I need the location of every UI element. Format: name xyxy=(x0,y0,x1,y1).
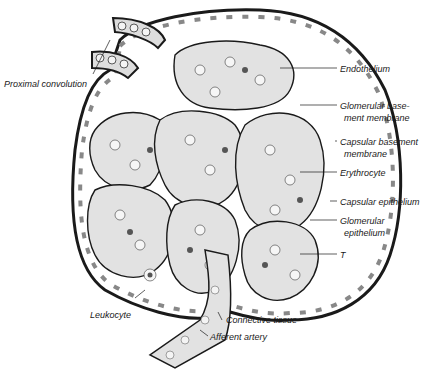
label-erythrocyte: Erythrocyte xyxy=(340,168,386,178)
label-capsular-basement-membrane-2: membrane xyxy=(344,149,387,159)
label-afferent-artery: Afferent artery xyxy=(210,332,267,342)
label-capsular-basement-membrane-1: Capsular basement xyxy=(340,137,418,147)
label-t: T xyxy=(340,250,346,260)
label-glomerular-basement-membrane-1: Glomerular base- xyxy=(340,101,410,111)
label-proximal-convolution: Proximal convolution xyxy=(4,79,87,89)
renal-corpuscle-diagram xyxy=(0,0,438,371)
label-capsular-epithelium: Capsular epithelium xyxy=(340,197,420,207)
label-connective-tissue: Connective tissue xyxy=(226,315,297,325)
label-leukocyte: Leukocyte xyxy=(90,310,131,320)
label-glomerular-epithelium-2: epithelium xyxy=(344,228,385,238)
label-glomerular-basement-membrane-2: ment membrane xyxy=(344,113,410,123)
label-endothelium: Endothelium xyxy=(340,64,390,74)
label-glomerular-epithelium-1: Glomerular xyxy=(340,216,385,226)
